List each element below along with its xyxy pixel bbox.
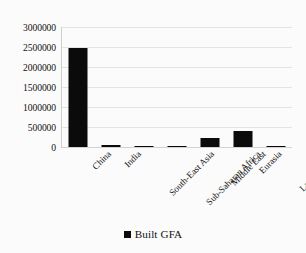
bar-slot bbox=[62, 27, 95, 147]
bars-group bbox=[62, 27, 292, 147]
legend-square-marker-icon bbox=[124, 231, 131, 238]
bar bbox=[102, 145, 121, 147]
x-axis-tick-label: India bbox=[123, 149, 143, 169]
bar bbox=[135, 146, 154, 148]
bar bbox=[69, 48, 88, 147]
plot-area: 0500000100000015000002000000250000030000… bbox=[62, 27, 292, 147]
bar-chart: 0500000100000015000002000000250000030000… bbox=[0, 0, 306, 253]
y-axis-tick-label: 3000000 bbox=[23, 22, 62, 33]
bar-slot bbox=[259, 27, 292, 147]
x-axis-tick-label: South-East Asia bbox=[167, 149, 216, 198]
y-axis-tick-label: 0 bbox=[51, 142, 62, 153]
bar bbox=[266, 146, 285, 148]
bar-slot bbox=[226, 27, 259, 147]
bar-slot bbox=[128, 27, 161, 147]
bar-slot bbox=[161, 27, 194, 147]
y-axis-tick-label: 1500000 bbox=[23, 82, 62, 93]
legend-label-built-gfa: Built GFA bbox=[135, 228, 183, 240]
x-axis-tick-label: China bbox=[91, 149, 114, 172]
bar bbox=[233, 131, 252, 147]
x-axis-tick-labels: ChinaIndiaSouth-East AsiaSub-Saharan Afr… bbox=[62, 149, 292, 211]
y-axis-tick-label: 2000000 bbox=[23, 62, 62, 73]
bar bbox=[200, 138, 219, 147]
bar-slot bbox=[95, 27, 128, 147]
bar bbox=[167, 146, 186, 148]
chart-legend: Built GFA bbox=[0, 228, 306, 240]
y-axis-tick-label: 1000000 bbox=[23, 102, 62, 113]
x-axis-tick-label: Latin America bbox=[297, 149, 306, 193]
y-axis-tick-label: 2500000 bbox=[23, 42, 62, 53]
y-axis-tick-label: 500000 bbox=[28, 122, 62, 133]
bar-slot bbox=[193, 27, 226, 147]
gridline: 0 bbox=[62, 147, 292, 148]
